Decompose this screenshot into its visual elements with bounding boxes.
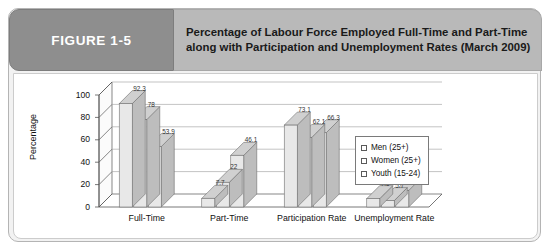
- legend-label: Women (25+): [371, 156, 421, 165]
- bar-value-label: 73.1: [298, 106, 310, 113]
- y-axis-tick-label: 100: [64, 90, 90, 100]
- bar-side-face: [326, 120, 339, 207]
- legend-label: Men (25+): [371, 143, 409, 152]
- legend-swatch-icon: [361, 171, 367, 177]
- bar-value-label: 66.3: [327, 114, 339, 121]
- x-axis-category-label: Unemployment Rate: [341, 213, 448, 224]
- bar-value-label: 46.1: [245, 136, 257, 143]
- bar-value-label: 53.9: [162, 128, 174, 135]
- bar-front-face: [119, 104, 132, 207]
- bar-value-label: 62.1: [313, 118, 325, 125]
- bar-side-face: [132, 91, 145, 207]
- figure-header: FIGURE 1-5 Percentage of Labour Force Em…: [9, 9, 542, 71]
- y-axis-tick-label: 40: [64, 157, 90, 167]
- y-axis-tick-label: 80: [64, 112, 90, 122]
- legend-swatch-icon: [361, 158, 367, 164]
- legend-item: Youth (15-24): [361, 167, 421, 180]
- bar-side-face: [312, 124, 325, 207]
- bar-front-face: [367, 199, 380, 207]
- figure-title: Percentage of Labour Force Employed Full…: [174, 25, 541, 54]
- figure-title-bar: Percentage of Labour Force Employed Full…: [174, 9, 542, 71]
- bar-front-face: [202, 198, 215, 207]
- bar-front-face: [284, 125, 297, 207]
- bar-value-label: 78: [148, 101, 155, 108]
- bar-side-face: [147, 107, 160, 207]
- y-axis-tick-label: 20: [64, 179, 90, 189]
- figure-number-badge: FIGURE 1-5: [9, 9, 174, 71]
- chart-panel: Percentage 02040608010014.85.77.566.362.…: [13, 73, 538, 239]
- bar-value-label: 22: [230, 163, 237, 170]
- bar-side-face: [297, 112, 310, 207]
- y-axis-tick-label: 60: [64, 134, 90, 144]
- bar-chart: Percentage 02040608010014.85.77.566.362.…: [14, 74, 537, 238]
- legend-swatch-icon: [361, 145, 367, 151]
- legend-item: Men (25+): [361, 141, 421, 154]
- figure-card: FIGURE 1-5 Percentage of Labour Force Em…: [8, 8, 541, 242]
- chart-legend: Men (25+)Women (25+)Youth (15-24): [355, 136, 429, 185]
- bar-value-label: 92.3: [133, 85, 145, 92]
- bar-value-label: 7.7: [216, 179, 225, 186]
- legend-item: Women (25+): [361, 154, 421, 167]
- y-axis-tick-label: 0: [64, 202, 90, 212]
- legend-label: Youth (15-24): [371, 169, 420, 178]
- figure-number-label: FIGURE 1-5: [51, 33, 131, 48]
- y-axis-title: Percentage: [28, 92, 38, 182]
